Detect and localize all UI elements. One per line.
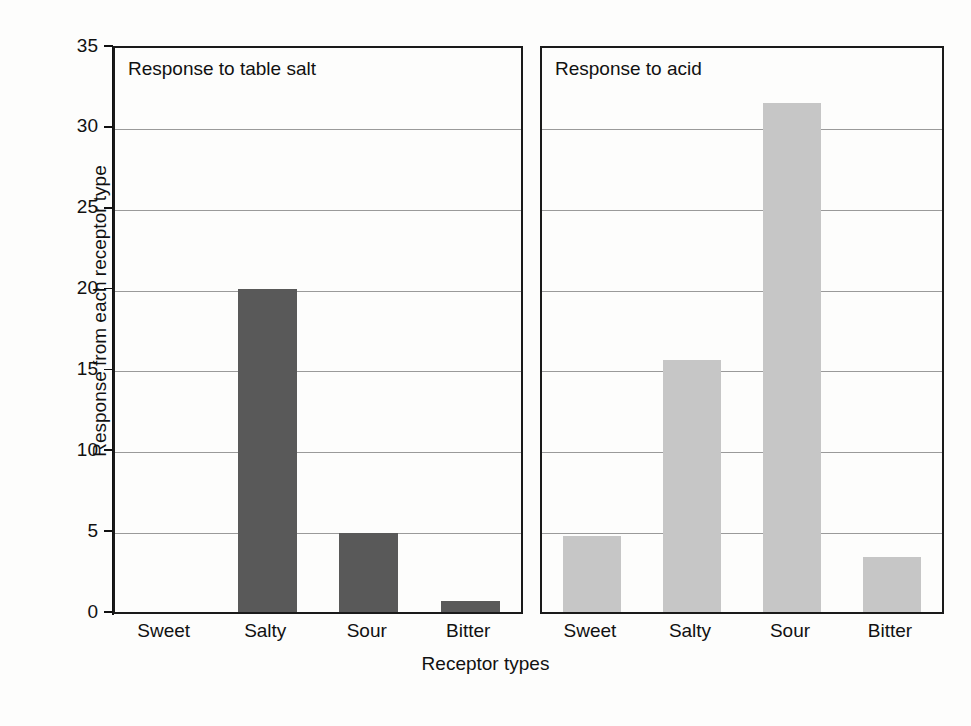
- y-tick-label: 15: [77, 359, 104, 378]
- taste-receptor-response-figure: Response from each receptor type 0510152…: [0, 0, 971, 726]
- x-label-bitter: Bitter: [840, 620, 940, 642]
- x-axis-title: Receptor types: [0, 653, 971, 675]
- x-label-bitter: Bitter: [418, 620, 520, 642]
- x-label-sour: Sour: [316, 620, 418, 642]
- panel-title-right: Response to acid: [555, 58, 702, 80]
- y-tick-label: 35: [77, 36, 104, 55]
- y-tick-label: 30: [77, 116, 104, 135]
- bar-salty: [663, 360, 721, 612]
- y-axis: 05101520253035: [60, 46, 113, 613]
- x-label-salty: Salty: [640, 620, 740, 642]
- y-tick-label: 0: [87, 602, 104, 621]
- x-axis-labels-left: SweetSaltySourBitter: [113, 620, 523, 648]
- plot-area-right: [542, 48, 942, 612]
- panel-response-to-acid: Response to acid: [540, 46, 944, 614]
- bar-sweet: [563, 536, 621, 612]
- y-tick-label: 5: [87, 521, 104, 540]
- page-bleed-text: [600, 4, 604, 21]
- x-label-sweet: Sweet: [540, 620, 640, 642]
- x-label-sour: Sour: [740, 620, 840, 642]
- bar-bitter: [441, 601, 500, 612]
- bar-sour: [763, 103, 821, 612]
- x-axis-labels-right: SweetSaltySourBitter: [540, 620, 944, 648]
- bar-sour: [339, 533, 398, 612]
- panel-title-left: Response to table salt: [128, 58, 316, 80]
- y-tick-label: 20: [77, 278, 104, 297]
- bar-salty: [238, 289, 297, 612]
- x-label-sweet: Sweet: [113, 620, 215, 642]
- plot-area-left: [115, 48, 521, 612]
- y-tick-label: 10: [77, 440, 104, 459]
- y-tick-label: 25: [77, 197, 104, 216]
- panel-response-to-table-salt: Response to table salt: [113, 46, 523, 614]
- bar-bitter: [863, 557, 921, 612]
- x-label-salty: Salty: [215, 620, 317, 642]
